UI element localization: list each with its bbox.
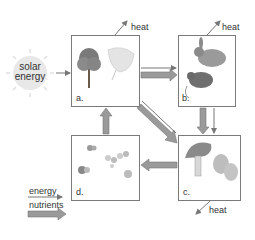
- legend-energy: energy: [29, 186, 57, 196]
- box-c-decomposers: c.: [178, 135, 241, 201]
- box-a-producers: a.: [71, 35, 140, 107]
- heat-label-c: heat: [209, 205, 227, 215]
- box-b-consumers: b.: [178, 35, 236, 107]
- heat-label-b: heat: [222, 22, 240, 32]
- box-d-nutrients: d.: [71, 135, 140, 201]
- legend-nutrients: nutrients: [29, 200, 64, 210]
- energy-label: energy: [13, 72, 47, 82]
- heat-label-a: heat: [131, 22, 149, 32]
- solar-energy-label: solar energy: [13, 62, 47, 82]
- box-a-label: a.: [76, 93, 84, 103]
- box-c-label: c.: [183, 187, 190, 197]
- box-b-label: b.: [182, 93, 190, 103]
- box-d-label: d.: [76, 187, 84, 197]
